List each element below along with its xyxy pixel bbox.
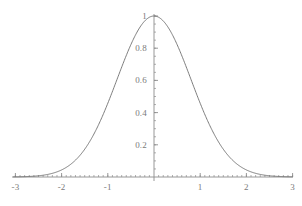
x-tick-label: 1 [198, 183, 203, 192]
y-tick-label: 0.4 [0, 108, 147, 117]
x-tick-label: 2 [244, 183, 249, 192]
y-tick-label: 0.2 [0, 140, 147, 149]
plot-canvas [0, 0, 302, 206]
y-tick-label: 0.8 [0, 44, 147, 53]
x-tick-label: 3 [290, 183, 295, 192]
y-tick-label: 1 [0, 12, 147, 21]
x-tick-label: -3 [11, 183, 19, 192]
gaussian-curve [13, 16, 293, 177]
y-tick-label: 0.6 [0, 76, 147, 85]
x-tick-label: -1 [104, 183, 112, 192]
gaussian-plot-figure: -3-2-1123 0.20.40.60.81 [0, 0, 302, 206]
x-tick-label: -2 [58, 183, 66, 192]
y-axis-major-ticks [154, 16, 158, 145]
